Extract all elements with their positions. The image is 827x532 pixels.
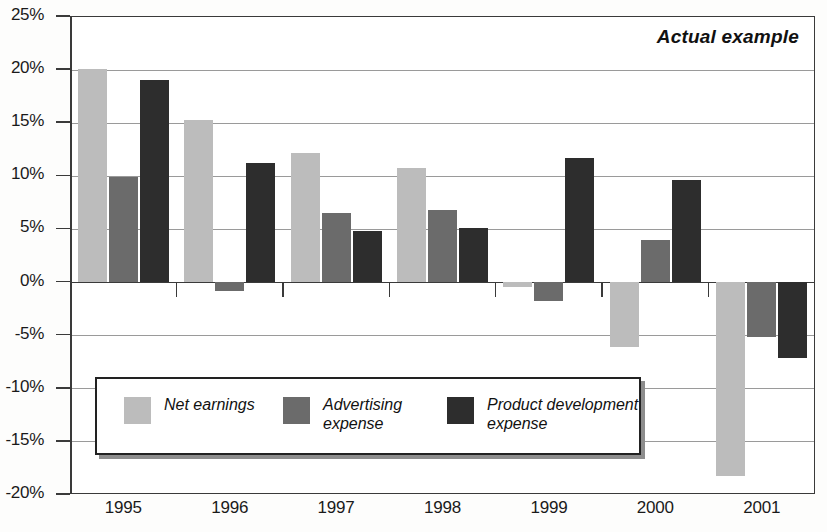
y-axis-tick xyxy=(56,493,70,495)
bar xyxy=(246,163,275,282)
x-axis-tick xyxy=(495,282,497,297)
legend-swatch-icon-advertising-expense xyxy=(283,397,310,424)
legend-swatch-icon-product-development-expense xyxy=(447,397,474,424)
y-axis-spine xyxy=(70,16,72,494)
chart-title: Actual example xyxy=(657,26,799,48)
bar xyxy=(503,282,532,287)
y-axis-tick xyxy=(56,228,70,230)
y-axis-tick-label: -10% xyxy=(0,377,44,397)
bar xyxy=(534,282,563,301)
bar xyxy=(672,180,701,282)
y-axis-tick-label: 5% xyxy=(0,217,44,237)
legend-swatch-icon-net-earnings xyxy=(124,397,151,424)
y-axis-tick xyxy=(56,121,70,123)
chart-figure: 25%20%15%10%5%0%-5%-10%-15%-20% 19951996… xyxy=(0,0,827,532)
bar xyxy=(140,80,169,282)
legend-item-advertising-expense: Advertising expense xyxy=(283,395,402,433)
bar xyxy=(641,240,670,281)
bar xyxy=(716,282,745,476)
y-axis-tick-label: -15% xyxy=(0,430,44,450)
y-axis-tick xyxy=(56,440,70,442)
x-axis-tick-label: 2000 xyxy=(610,498,700,518)
bar xyxy=(78,69,107,281)
x-axis-tick-label: 1998 xyxy=(398,498,488,518)
y-axis-tick-label: 20% xyxy=(0,58,44,78)
x-axis-tick-label: 1997 xyxy=(291,498,381,518)
x-axis-tick xyxy=(708,282,710,297)
x-axis-tick-label: 2001 xyxy=(717,498,807,518)
x-axis-tick-label: 1996 xyxy=(185,498,275,518)
y-axis-tick-label: 0% xyxy=(0,271,44,291)
zero-baseline xyxy=(71,282,814,284)
y-axis-tick-label: -5% xyxy=(0,324,44,344)
y-axis-tick-label: 25% xyxy=(0,5,44,25)
y-axis-tick xyxy=(56,15,70,17)
legend-label-net-earnings: Net earnings xyxy=(164,395,255,414)
bar xyxy=(109,177,138,281)
bar xyxy=(565,158,594,281)
legend-item-net-earnings: Net earnings xyxy=(124,395,255,424)
gridline xyxy=(71,176,814,177)
x-axis-tick xyxy=(601,282,603,297)
legend-item-product-development-expense: Product development expense xyxy=(447,395,638,433)
y-axis-tick xyxy=(56,68,70,70)
y-axis-tick xyxy=(56,175,70,177)
gridline xyxy=(71,70,814,71)
x-axis-tick xyxy=(282,282,284,297)
y-axis-tick xyxy=(56,334,70,336)
y-axis-tick xyxy=(56,387,70,389)
legend-label-product-development-expense: Product development expense xyxy=(487,395,638,433)
bar xyxy=(322,213,351,282)
bar xyxy=(184,120,213,281)
x-axis-tick-label: 1995 xyxy=(78,498,168,518)
bar xyxy=(291,153,320,282)
y-axis-tick-label: 10% xyxy=(0,164,44,184)
bar xyxy=(610,282,639,348)
gridline xyxy=(71,335,814,336)
gridline xyxy=(71,123,814,124)
chart-legend: Net earnings Advertising expense Product… xyxy=(95,377,641,455)
legend-label-advertising-expense: Advertising expense xyxy=(323,395,402,433)
bar xyxy=(397,168,426,282)
x-axis-tick xyxy=(389,282,391,297)
bar xyxy=(428,210,457,281)
y-axis-tick xyxy=(56,281,70,283)
bar xyxy=(353,231,382,282)
x-axis-tick xyxy=(176,282,178,297)
bar xyxy=(778,282,807,358)
bar xyxy=(747,282,776,337)
y-axis-tick-label: -20% xyxy=(0,483,44,503)
bar xyxy=(215,282,244,292)
y-axis-tick-label: 15% xyxy=(0,111,44,131)
bar xyxy=(459,228,488,281)
x-axis-tick-label: 1999 xyxy=(504,498,594,518)
